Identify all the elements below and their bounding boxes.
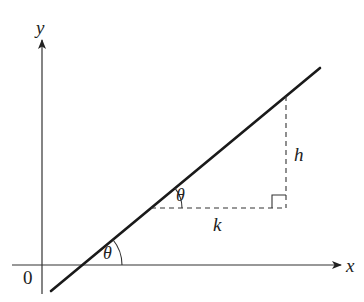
- h-label: h: [294, 144, 304, 165]
- theta-label-lower: θ: [103, 243, 112, 263]
- right-angle-marker: [272, 195, 286, 208]
- diagram-canvas: y x 0 θ θ k h: [0, 0, 364, 302]
- k-label: k: [213, 214, 222, 235]
- x-axis-label: x: [345, 255, 355, 276]
- origin-label: 0: [23, 267, 33, 288]
- main-line: [51, 68, 320, 291]
- y-axis-label: y: [34, 17, 45, 38]
- theta-label-upper: θ: [176, 185, 185, 205]
- angle-arc-lower: [113, 240, 122, 266]
